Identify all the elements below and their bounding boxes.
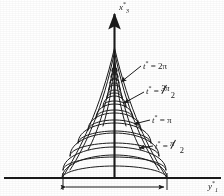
ann-3pi2-eq: =: [152, 86, 162, 96]
diagram-svg: [0, 0, 224, 196]
leader-arrow-2pi: [121, 66, 141, 82]
horizontal-axis-label-index: 1: [215, 187, 218, 193]
vertical-axis-label-star: *: [123, 1, 126, 7]
annotation-t-equals-2pi: t* = 2π: [143, 60, 167, 71]
ann-2pi-eq: =: [149, 61, 159, 71]
annotation-t-equals-3pi-over-2: t* = 3π2: [146, 85, 175, 97]
horizontal-axis-label: y*1: [208, 180, 218, 193]
vertical-axis-label: x*3: [119, 1, 129, 14]
ann-pi2-eq: =: [161, 141, 171, 151]
ann-3pi2-denominator: 2: [171, 91, 175, 100]
vertical-axis-label-index: 3: [126, 8, 129, 14]
annotation-t-equals-pi: t* = π: [152, 114, 172, 125]
annotation-t-equals-pi-over-2: t* = π2: [155, 140, 184, 152]
ann-pi-value: π: [167, 115, 172, 125]
ann-pi2-denominator: 2: [180, 146, 184, 155]
ann-3pi2-fraction: 3π2: [161, 86, 175, 97]
horizontal-axis-label-star: *: [212, 180, 215, 186]
figure-canvas: x*3 y*1 t* = 2π t* = 3π2 t* = π t* = π2: [0, 0, 224, 196]
ann-2pi-value: 2π: [158, 61, 167, 71]
ann-pi2-fraction: π2: [170, 141, 184, 152]
ann-pi-eq: =: [158, 115, 168, 125]
